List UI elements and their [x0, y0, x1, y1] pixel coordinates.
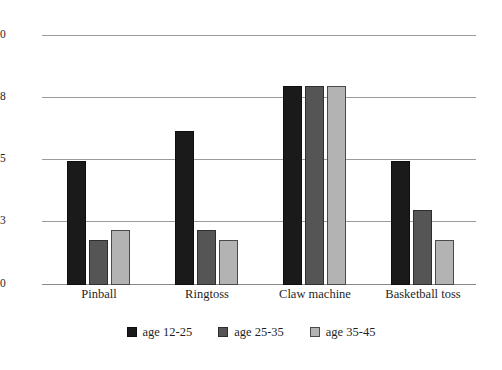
xtick-label-claw-machine: Claw machine	[265, 288, 365, 302]
legend-label-age-25-35: age 25-35	[234, 326, 284, 339]
bar-basketball-toss-age-35-45[interactable]	[435, 240, 454, 285]
bar-pinball-age-12-25[interactable]	[67, 161, 86, 286]
bar-ringtoss-age-12-25[interactable]	[175, 131, 194, 285]
bar-group-ringtoss	[175, 35, 239, 285]
bar-claw-machine-age-35-45[interactable]	[327, 86, 346, 285]
x-axis-labels: Pinball Ringtoss Claw machine Basketball…	[42, 288, 476, 310]
legend-swatch-icon-age-25-35	[218, 327, 228, 337]
bar-ringtoss-age-25-35[interactable]	[197, 230, 216, 285]
ytick-label-25: 25	[0, 153, 6, 165]
bar-pinball-age-35-45[interactable]	[111, 230, 130, 285]
xtick-label-basketball-toss: Basketball toss	[373, 288, 473, 302]
xtick-label-pinball: Pinball	[49, 288, 149, 302]
bar-basketball-toss-age-25-35[interactable]	[413, 210, 432, 285]
bar-groups	[42, 35, 476, 285]
bar-basketball-toss-age-12-25[interactable]	[391, 161, 410, 286]
ytick-label-50: 50	[0, 29, 6, 41]
bar-claw-machine-age-12-25[interactable]	[283, 86, 302, 285]
legend-item-age-35-45[interactable]: age 35-45	[310, 326, 376, 339]
legend: age 12-25 age 25-35 age 35-45	[0, 326, 502, 339]
legend-item-age-25-35[interactable]: age 25-35	[218, 326, 284, 339]
xtick-label-ringtoss: Ringtoss	[157, 288, 257, 302]
bar-pinball-age-25-35[interactable]	[89, 240, 108, 285]
bar-chart: 50 38 25 13 0 Pinball Ringt	[0, 0, 502, 370]
bar-group-basketball-toss	[391, 35, 455, 285]
bar-ringtoss-age-35-45[interactable]	[219, 240, 238, 285]
bar-group-claw-machine	[283, 35, 347, 285]
bar-group-pinball	[67, 35, 131, 285]
legend-item-age-12-25[interactable]: age 12-25	[127, 326, 193, 339]
bar-claw-machine-age-25-35[interactable]	[305, 86, 324, 285]
legend-label-age-12-25: age 12-25	[143, 326, 193, 339]
legend-label-age-35-45: age 35-45	[326, 326, 376, 339]
ytick-label-13: 13	[0, 215, 6, 227]
legend-swatch-icon-age-12-25	[127, 327, 137, 337]
ytick-label-0: 0	[0, 278, 6, 290]
ytick-label-38: 38	[0, 91, 6, 103]
legend-swatch-icon-age-35-45	[310, 327, 320, 337]
